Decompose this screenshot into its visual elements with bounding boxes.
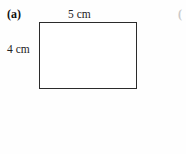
part-label-b-partial: ( <box>178 7 182 21</box>
rectangle-figure: 5 cm 4 cm <box>0 0 186 154</box>
figure-page: (a) 5 cm 4 cm ( <box>0 0 186 154</box>
rectangle-shape <box>39 22 137 89</box>
dimension-label-height: 4 cm <box>7 43 30 56</box>
dimension-label-width: 5 cm <box>68 8 91 21</box>
